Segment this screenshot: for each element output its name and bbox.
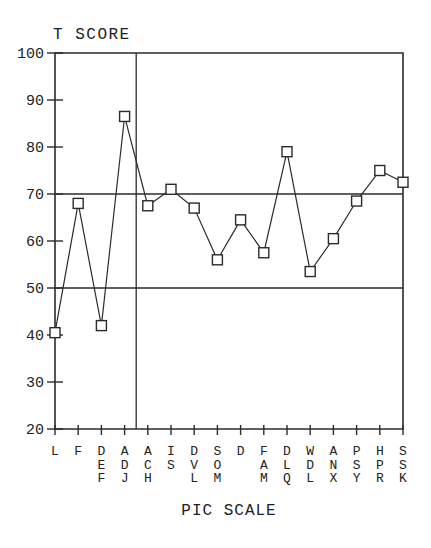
x-tick-label-f: F [74,444,82,459]
y-tick-label: 90 [26,93,44,110]
y-tick-label: 100 [17,46,44,63]
x-tick-label-psy: Y [353,471,361,486]
data-point-marker-som [212,255,222,265]
data-point-marker-ach [143,201,153,211]
x-tick-label-d: D [237,444,245,459]
x-tick-label-l: L [51,444,59,459]
data-point-marker-anx [328,234,338,244]
data-point-marker-ssk [398,177,408,187]
tscore-profile-line [55,116,403,332]
data-point-marker-dvl [189,203,199,213]
data-point-marker-is [166,184,176,194]
y-tick-label: 20 [26,422,44,439]
data-point-marker-def [96,321,106,331]
data-point-marker-fam [259,248,269,258]
x-tick-label-adj: J [121,471,129,486]
x-tick-label-anx: X [329,471,337,486]
x-tick-label-dlq: Q [283,471,291,486]
x-tick-label-som: M [213,471,221,486]
x-axis-title: PIC SCALE [55,503,403,519]
x-tick-label-ach: H [144,471,152,486]
x-tick-label-wdl: L [306,471,314,486]
data-point-marker-d [236,215,246,225]
data-point-marker-l [50,328,60,338]
profile-line-chart: 1009080706050403020LFDEFADJACHISDVLSOMDF… [0,0,431,548]
y-tick-label: 80 [26,140,44,157]
data-point-marker-f [73,198,83,208]
y-tick-label: 30 [26,375,44,392]
data-point-marker-dlq [282,147,292,157]
x-tick-label-def: F [97,471,105,486]
data-point-marker-psy [352,196,362,206]
data-point-marker-hpr [375,166,385,176]
x-tick-label-fam: M [260,471,268,486]
x-tick-label-dvl: L [190,471,198,486]
pic-profile-figure: T SCORE 1009080706050403020LFDEFADJACHIS… [0,0,431,548]
y-tick-label: 70 [26,187,44,204]
y-tick-label: 60 [26,234,44,251]
data-point-marker-adj [120,111,130,121]
y-tick-label: 50 [26,281,44,298]
x-tick-label-hpr: R [376,471,384,486]
y-tick-label: 40 [26,328,44,345]
data-point-marker-wdl [305,267,315,277]
x-tick-label-is: S [167,458,175,473]
x-tick-label-ssk: K [399,471,407,486]
